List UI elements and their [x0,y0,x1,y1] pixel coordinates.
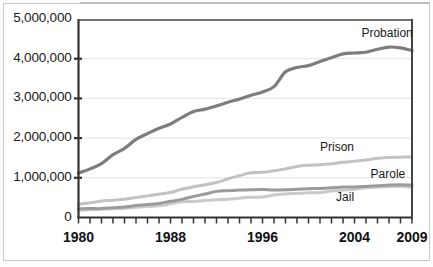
x-tick-label-1980: 1980 [49,229,109,245]
x-tick-label-1996: 1996 [233,229,293,245]
y-tick-label-2000000: 2,000,000 [13,129,71,144]
series-line-probation [79,47,413,173]
x-tick-label-2009: 2009 [382,229,433,245]
series-label-prison: Prison [320,140,354,154]
y-tick-label-3000000: 3,000,000 [13,89,71,104]
series-label-jail: Jail [336,190,354,204]
y-tick-label-1000000: 1,000,000 [13,169,71,184]
series-label-parole: Parole [371,167,406,181]
y-tick-label-0: 0 [64,209,71,224]
series-label-probation: Probation [361,26,412,40]
chart-figure: 01,000,0002,000,0003,000,0004,000,0005,0… [0,0,433,267]
y-tick-label-5000000: 5,000,000 [13,10,71,25]
x-tick-label-2004: 2004 [325,229,385,245]
x-tick-label-1988: 1988 [141,229,201,245]
data-series-group [79,47,413,210]
y-tick-label-4000000: 4,000,000 [13,50,71,65]
